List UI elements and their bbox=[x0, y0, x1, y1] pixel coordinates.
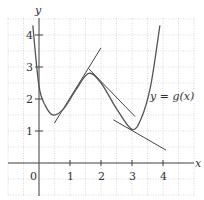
x-tick-label: 0 bbox=[30, 170, 37, 183]
x-axis-label: x bbox=[195, 157, 202, 170]
chart-svg: 01234 1234 x y y = g(x) bbox=[0, 0, 204, 200]
y-tick-label: 3 bbox=[26, 61, 33, 74]
y-tick-label: 2 bbox=[26, 93, 33, 106]
curve-g bbox=[33, 25, 160, 129]
y-tick-label: 4 bbox=[26, 29, 33, 42]
curve-label: y = g(x) bbox=[149, 90, 194, 103]
x-tick-label: 1 bbox=[67, 170, 74, 183]
x-tick-label: 3 bbox=[129, 170, 136, 183]
y-tick-labels: 1234 bbox=[26, 29, 33, 138]
y-tick-label: 1 bbox=[26, 125, 33, 138]
chart-figure: 01234 1234 x y y = g(x) bbox=[0, 0, 204, 200]
x-tick-label: 4 bbox=[160, 170, 167, 183]
tangent-line bbox=[113, 120, 166, 150]
x-tick-label: 2 bbox=[98, 170, 105, 183]
x-tick-labels: 01234 bbox=[30, 170, 167, 183]
y-axis-label: y bbox=[34, 4, 42, 17]
